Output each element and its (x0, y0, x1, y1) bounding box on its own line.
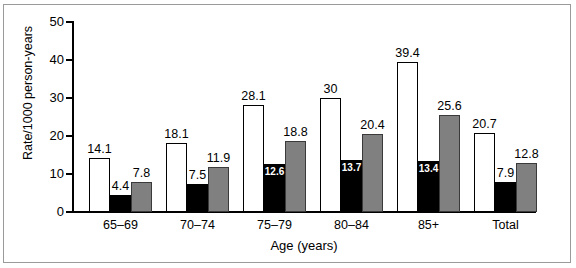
bar-black-6569 (110, 195, 131, 212)
bar-chart-figure: Rate/1000 person-years Age (years) 01020… (0, 0, 576, 268)
bar-black-Total (495, 182, 516, 212)
bar-value-label: 12.8 (507, 148, 546, 161)
bar-gray-6569 (131, 182, 152, 212)
x-category-label: 70–74 (158, 218, 238, 232)
bar-value-label: 28.1 (234, 90, 273, 103)
bar-value-label: 25.6 (430, 100, 469, 113)
bar-gray-8084 (362, 134, 383, 212)
y-tick-mark (66, 21, 73, 23)
bar-value-label: 18.8 (276, 126, 315, 139)
bar-white-8084 (320, 98, 341, 212)
bar-white-85+ (397, 62, 418, 212)
y-tick-label: 50 (38, 15, 64, 28)
x-category-label: 65–69 (81, 218, 161, 232)
y-tick-label: 0 (38, 205, 64, 218)
bar-gray-7579 (285, 141, 306, 212)
y-tick-mark (66, 173, 73, 175)
y-tick-mark (66, 211, 73, 213)
bar-black-7074 (187, 184, 208, 213)
y-tick-mark (66, 135, 73, 137)
bar-value-label: 30 (311, 83, 350, 96)
x-category-label: 85+ (389, 218, 469, 232)
x-category-label: 75–79 (235, 218, 315, 232)
bar-value-label: 39.4 (388, 47, 427, 60)
y-tick-label: 40 (38, 53, 64, 66)
bar-gray-7074 (208, 167, 229, 212)
bar-gray-Total (516, 163, 537, 212)
y-tick-label: 30 (38, 91, 64, 104)
x-category-label: Total (466, 218, 546, 232)
bar-value-label: 14.1 (80, 143, 119, 156)
y-tick-label: 20 (38, 129, 64, 142)
y-tick-mark (66, 59, 73, 61)
y-tick-mark (66, 97, 73, 99)
bar-value-label: 18.1 (157, 128, 196, 141)
x-category-label: 80–84 (312, 218, 392, 232)
bar-value-label: 11.9 (199, 152, 238, 165)
bar-value-label: 20.4 (353, 119, 392, 132)
y-axis-title: Rate/1000 person-years (21, 13, 35, 173)
y-tick-label: 10 (38, 167, 64, 180)
bar-value-label: 7.8 (122, 167, 161, 180)
bar-gray-85+ (439, 115, 460, 212)
bar-white-7579 (243, 105, 264, 212)
x-axis-title: Age (years) (72, 238, 536, 253)
bar-value-label: 20.7 (465, 118, 504, 131)
y-axis-line (72, 21, 74, 213)
